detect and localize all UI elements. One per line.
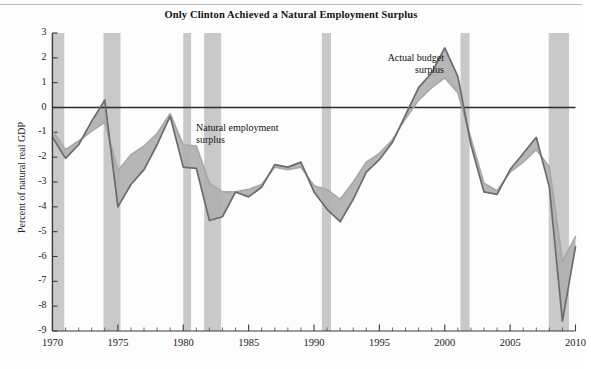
x-tick-label: 1995 bbox=[356, 337, 402, 348]
annotation-natural-employment-surplus: Natural employment surplus bbox=[196, 122, 278, 145]
y-tick-label: -6 bbox=[21, 250, 47, 261]
annotation-actual-budget-surplus: Actual budget surplus bbox=[340, 52, 444, 75]
x-tick-label: 1970 bbox=[30, 337, 76, 348]
y-tick-label: 2 bbox=[21, 51, 47, 62]
y-tick-label: -2 bbox=[21, 150, 47, 161]
y-tick-label: 0 bbox=[21, 101, 47, 112]
y-tick-label: -8 bbox=[21, 299, 47, 310]
x-tick-label: 2010 bbox=[553, 337, 591, 348]
y-tick-label: -9 bbox=[21, 324, 47, 335]
y-tick-label: -7 bbox=[21, 274, 47, 285]
x-tick-label: 1980 bbox=[160, 337, 206, 348]
y-tick-label: -4 bbox=[21, 200, 47, 211]
x-tick-label: 1985 bbox=[226, 337, 272, 348]
y-tick-label: -3 bbox=[21, 175, 47, 186]
y-tick-label: 1 bbox=[21, 76, 47, 87]
y-tick-label: -1 bbox=[21, 125, 47, 136]
x-tick-label: 1990 bbox=[291, 337, 337, 348]
y-tick-label: -5 bbox=[21, 225, 47, 236]
x-tick-label: 2005 bbox=[487, 337, 533, 348]
x-tick-label: 2000 bbox=[422, 337, 468, 348]
y-tick-label: 3 bbox=[21, 26, 47, 37]
x-tick-label: 1975 bbox=[95, 337, 141, 348]
